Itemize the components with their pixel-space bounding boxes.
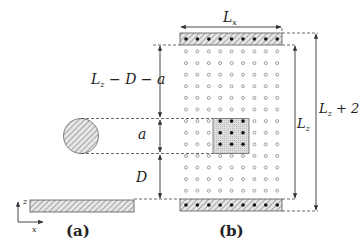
filled-node bbox=[218, 143, 222, 147]
empty-node bbox=[219, 50, 222, 53]
empty-node bbox=[196, 154, 199, 157]
empty-node bbox=[264, 189, 267, 192]
empty-node bbox=[276, 131, 279, 134]
filled-node bbox=[230, 131, 234, 135]
label-lz-minus-d-minus-a: Lz − D − a bbox=[91, 72, 165, 89]
caption-b: (b) bbox=[219, 224, 244, 239]
empty-node bbox=[242, 189, 245, 192]
empty-node bbox=[230, 73, 233, 76]
caption-a: (a) bbox=[66, 224, 90, 239]
empty-node bbox=[264, 143, 267, 146]
empty-node bbox=[264, 154, 267, 157]
empty-node bbox=[196, 50, 199, 53]
empty-node bbox=[196, 73, 199, 76]
empty-node bbox=[264, 166, 267, 169]
wall-node bbox=[230, 37, 234, 41]
label-d: D bbox=[136, 170, 147, 184]
empty-node bbox=[242, 108, 245, 111]
filled-node bbox=[218, 131, 222, 135]
empty-node bbox=[264, 85, 267, 88]
empty-node bbox=[276, 154, 279, 157]
filled-node bbox=[241, 119, 245, 123]
empty-node bbox=[207, 120, 210, 123]
empty-node bbox=[276, 189, 279, 192]
empty-node bbox=[242, 50, 245, 53]
empty-node bbox=[207, 96, 210, 99]
filled-node bbox=[230, 119, 234, 123]
empty-node bbox=[196, 178, 199, 181]
empty-node bbox=[242, 73, 245, 76]
empty-node bbox=[276, 108, 279, 111]
empty-node bbox=[264, 50, 267, 53]
empty-node bbox=[196, 108, 199, 111]
empty-node bbox=[276, 166, 279, 169]
empty-node bbox=[253, 154, 256, 157]
empty-node bbox=[276, 85, 279, 88]
empty-node bbox=[276, 143, 279, 146]
empty-node bbox=[242, 178, 245, 181]
empty-node bbox=[196, 120, 199, 123]
empty-node bbox=[253, 166, 256, 169]
wall-node bbox=[184, 37, 188, 41]
empty-node bbox=[276, 73, 279, 76]
empty-node bbox=[230, 178, 233, 181]
empty-node bbox=[253, 96, 256, 99]
substrate-slab bbox=[30, 200, 134, 212]
empty-node bbox=[196, 85, 199, 88]
empty-node bbox=[242, 85, 245, 88]
empty-node bbox=[230, 96, 233, 99]
empty-node bbox=[264, 120, 267, 123]
guide-lines bbox=[81, 28, 318, 211]
empty-node bbox=[253, 62, 256, 65]
empty-node bbox=[264, 131, 267, 134]
axis-label-x: x bbox=[32, 226, 37, 234]
empty-node bbox=[253, 50, 256, 53]
empty-node bbox=[230, 50, 233, 53]
empty-node bbox=[185, 166, 188, 169]
empty-node bbox=[185, 62, 188, 65]
empty-node bbox=[185, 108, 188, 111]
empty-node bbox=[196, 166, 199, 169]
empty-node bbox=[207, 178, 210, 181]
wall-node bbox=[253, 37, 257, 41]
empty-node bbox=[207, 62, 210, 65]
empty-node bbox=[196, 189, 199, 192]
empty-node bbox=[185, 143, 188, 146]
empty-node bbox=[230, 108, 233, 111]
empty-node bbox=[219, 166, 222, 169]
empty-node bbox=[207, 85, 210, 88]
wall-node bbox=[207, 203, 211, 207]
label-a: a bbox=[138, 127, 146, 141]
empty-node bbox=[253, 189, 256, 192]
empty-node bbox=[264, 62, 267, 65]
empty-node bbox=[242, 166, 245, 169]
empty-node bbox=[196, 62, 199, 65]
filled-node bbox=[241, 143, 245, 147]
empty-node bbox=[207, 143, 210, 146]
wall-node bbox=[196, 37, 200, 41]
label-lz: Lz bbox=[297, 117, 310, 133]
empty-node bbox=[276, 96, 279, 99]
empty-node bbox=[185, 178, 188, 181]
label-lx: Lx bbox=[223, 10, 237, 27]
empty-node bbox=[264, 96, 267, 99]
wall-node bbox=[253, 203, 257, 207]
empty-node bbox=[207, 166, 210, 169]
empty-node bbox=[185, 96, 188, 99]
wall-node bbox=[207, 37, 211, 41]
empty-node bbox=[264, 73, 267, 76]
empty-node bbox=[253, 131, 256, 134]
grid-nodes bbox=[185, 50, 279, 192]
empty-node bbox=[276, 62, 279, 65]
axis-label-z: z bbox=[23, 198, 27, 206]
empty-node bbox=[253, 143, 256, 146]
particle-region-box bbox=[213, 119, 249, 154]
empty-node bbox=[196, 131, 199, 134]
empty-node bbox=[230, 166, 233, 169]
wall-node bbox=[196, 203, 200, 207]
empty-node bbox=[242, 96, 245, 99]
empty-node bbox=[230, 85, 233, 88]
empty-node bbox=[219, 62, 222, 65]
wall-node bbox=[241, 203, 245, 207]
empty-node bbox=[207, 131, 210, 134]
